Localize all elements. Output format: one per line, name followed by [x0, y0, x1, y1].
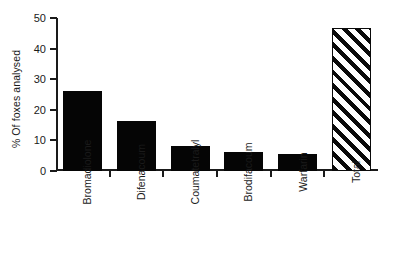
x-axis-label-brodifacoum: Brodifacoum: [236, 168, 252, 254]
x-axis-tick: [323, 171, 325, 177]
plot-area: 01020304050: [56, 14, 378, 174]
y-axis-line: [56, 18, 58, 171]
x-axis-tick: [162, 171, 164, 177]
y-axis-tick: 30: [50, 78, 57, 80]
x-axis-label-difenacoum: Difenacoum: [129, 168, 145, 254]
y-axis-tick: 0: [50, 170, 57, 172]
y-axis-tick: 50: [50, 17, 57, 19]
x-axis-label-coumatetralyl: Coumatetralyl: [182, 168, 198, 254]
y-axis-tick: 40: [50, 48, 57, 50]
x-axis-label-text: Bromadiolone: [83, 140, 94, 205]
x-axis-label-text: Coumatetralyl: [190, 140, 201, 205]
y-axis-tick-label: 30: [34, 74, 46, 85]
x-axis-label-warfarin: Warfarin: [290, 168, 306, 254]
y-axis-tick-label: 50: [34, 13, 46, 24]
y-axis-title-text: % Of foxes analysed: [10, 50, 22, 148]
y-axis-tick: 10: [50, 139, 57, 141]
y-axis-tick: 20: [50, 109, 57, 111]
x-axis-label-total: Total: [343, 168, 359, 254]
x-axis-label-text: Warfarin: [298, 152, 309, 191]
y-axis-tick-label: 40: [34, 43, 46, 54]
x-axis-label-bromadiolone: Bromadiolone: [75, 168, 91, 254]
y-axis-tick-label: 0: [40, 166, 46, 177]
x-axis-label-text: Difenacoum: [137, 144, 148, 200]
y-axis-tick-label: 20: [34, 104, 46, 115]
y-axis-title: % Of foxes analysed: [7, 26, 25, 172]
x-axis-tick: [216, 171, 218, 177]
x-axis-tick: [270, 171, 272, 177]
bar-total: [332, 28, 371, 171]
x-axis-label-text: Total: [351, 161, 362, 183]
y-axis-tick-label: 10: [34, 135, 46, 146]
x-axis-label-text: Brodifacoum: [244, 143, 255, 202]
chart-figure: % Of foxes analysed 01020304050 Bromadio…: [0, 0, 395, 260]
x-axis-tick: [109, 171, 111, 177]
